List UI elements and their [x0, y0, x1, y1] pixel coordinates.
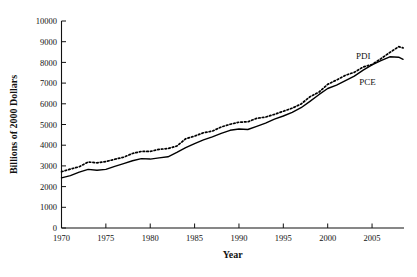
x-axis-tick-label: 2000: [319, 233, 336, 243]
y-axis-tick-label: 7000: [40, 78, 57, 88]
x-axis-tick-label: 1970: [53, 233, 70, 243]
economic-line-chart: 0100020003000400050006000700080009000100…: [0, 0, 417, 277]
series-label-pce: PCE: [359, 77, 376, 87]
y-axis-tick-label: 9000: [40, 37, 57, 47]
y-axis-tick-label: 10000: [36, 16, 57, 26]
y-axis-tick-label: 3000: [40, 161, 57, 171]
x-axis-tick-label: 1990: [230, 233, 247, 243]
x-axis-tick-label: 2005: [364, 233, 381, 243]
chart-canvas: 0100020003000400050006000700080009000100…: [0, 0, 417, 277]
series-label-pdi: PDI: [356, 51, 371, 61]
y-axis-tick-label: 1000: [40, 202, 57, 212]
y-axis-tick-label: 6000: [40, 99, 57, 109]
y-axis-tick-label: 2000: [40, 182, 57, 192]
series-line-pdi: [62, 47, 404, 172]
y-axis-title: Billions of 2000 Dollars: [8, 75, 19, 174]
x-axis-tick-label: 1995: [275, 233, 292, 243]
x-axis-tick-label: 1975: [97, 233, 114, 243]
x-axis-tick-label: 1985: [186, 233, 203, 243]
x-axis-title: Year: [223, 249, 244, 260]
y-axis-tick-label: 5000: [40, 120, 57, 130]
y-axis-tick-label: 4000: [40, 140, 57, 150]
y-axis-tick-label: 8000: [40, 58, 57, 68]
x-axis-tick-label: 1980: [142, 233, 159, 243]
